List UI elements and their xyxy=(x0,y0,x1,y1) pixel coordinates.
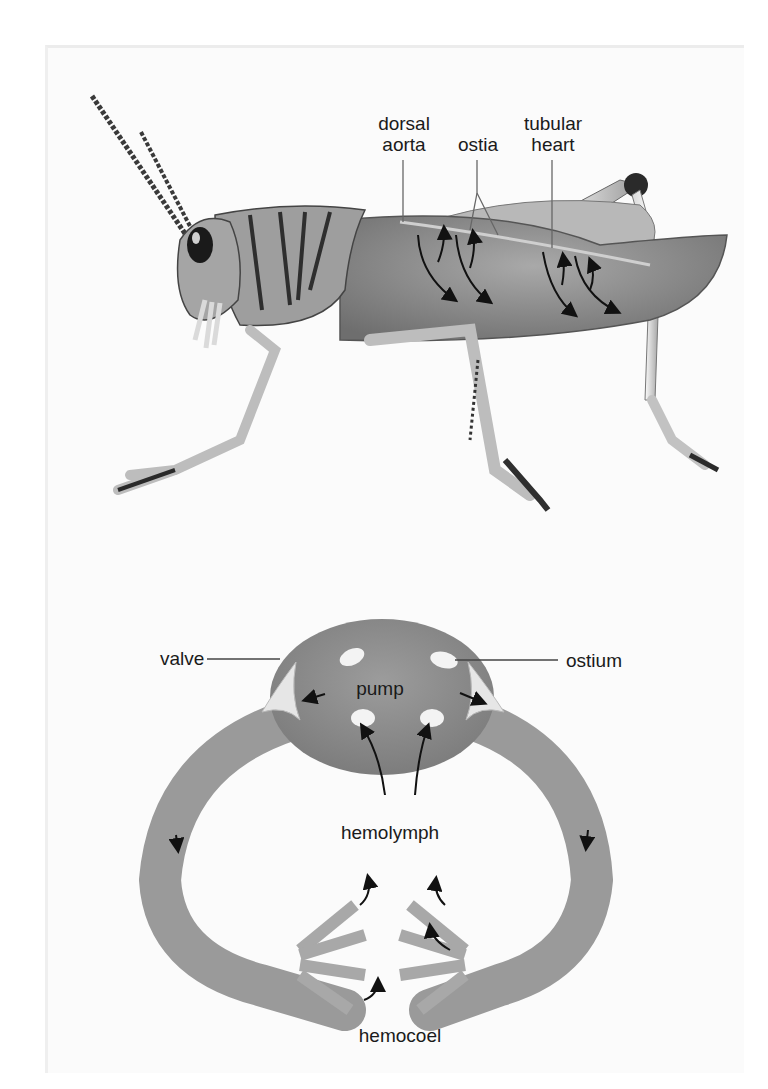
label-hemolymph: hemolymph xyxy=(335,822,445,843)
eye xyxy=(187,227,213,263)
label-tubular-heart: tubular heart xyxy=(520,113,586,155)
ostium-4 xyxy=(420,709,444,727)
antenna-left xyxy=(92,96,188,238)
front-leg xyxy=(118,330,275,490)
label-ostium: ostium xyxy=(566,650,636,671)
diagram-canvas xyxy=(0,0,768,1089)
label-valve: valve xyxy=(160,648,206,669)
label-tubular-heart-line2: heart xyxy=(520,134,586,155)
label-pump: pump xyxy=(350,678,410,699)
label-dorsal-aorta-line1: dorsal xyxy=(372,113,436,134)
ostium-3 xyxy=(351,709,375,727)
label-dorsal-aorta-line2: aorta xyxy=(372,134,436,155)
label-tubular-heart-line1: tubular xyxy=(520,113,586,134)
hind-lower-leg xyxy=(652,400,705,465)
label-dorsal-aorta: dorsal aorta xyxy=(372,113,436,155)
label-ostia: ostia xyxy=(450,134,506,155)
middle-leg xyxy=(370,330,530,495)
grasshopper-illustration xyxy=(92,96,727,510)
abdomen xyxy=(340,216,727,341)
label-hemocoel: hemocoel xyxy=(350,1025,450,1046)
